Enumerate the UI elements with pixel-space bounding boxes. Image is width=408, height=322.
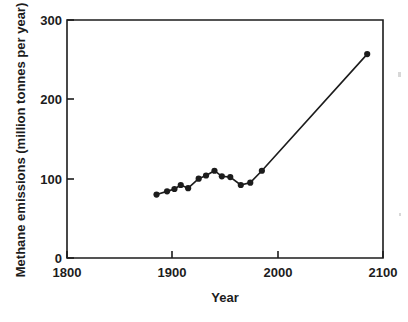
axis-box: [67, 20, 383, 258]
x-axis-title: Year: [211, 290, 238, 305]
data-point: [164, 188, 170, 194]
data-series-group: [153, 51, 370, 198]
data-point: [227, 174, 233, 180]
methane-emissions-chart: 300 200 100 0 1800 1900 2000 2100 Year M…: [0, 0, 408, 322]
data-point: [247, 180, 253, 186]
y-tick-labels: 300 200 100 0: [40, 13, 62, 266]
data-point: [364, 51, 370, 57]
y-axis-title: Methane emissions (million tonnes per ye…: [13, 3, 28, 278]
data-point: [178, 182, 184, 188]
data-point: [153, 191, 159, 197]
data-point: [211, 168, 217, 174]
x-tick-label-1800: 1800: [53, 265, 82, 280]
x-axis-ticks: [67, 251, 383, 258]
y-tick-label-0: 0: [55, 251, 62, 266]
data-point: [196, 176, 202, 182]
data-point: [259, 168, 265, 174]
speck-right-upper: [398, 72, 401, 77]
x-tick-labels: 1800 1900 2000 2100: [53, 265, 398, 280]
data-point: [171, 186, 177, 192]
x-tick-label-2000: 2000: [264, 265, 293, 280]
series-markers-methane: [153, 51, 370, 198]
plot-axes: [67, 20, 383, 258]
data-point: [185, 185, 191, 191]
chart-canvas: 300 200 100 0 1800 1900 2000 2100 Year M…: [0, 0, 408, 322]
scan-artifacts: [398, 72, 401, 216]
speck-right-lower: [399, 213, 401, 216]
x-tick-label-2100: 2100: [369, 265, 398, 280]
y-axis-ticks: [67, 20, 74, 258]
x-tick-label-1900: 1900: [158, 265, 187, 280]
y-tick-label-100: 100: [40, 172, 62, 187]
data-point: [238, 182, 244, 188]
y-tick-label-300: 300: [40, 13, 62, 28]
data-point: [219, 173, 225, 179]
data-point: [203, 172, 209, 178]
y-tick-label-200: 200: [40, 92, 62, 107]
